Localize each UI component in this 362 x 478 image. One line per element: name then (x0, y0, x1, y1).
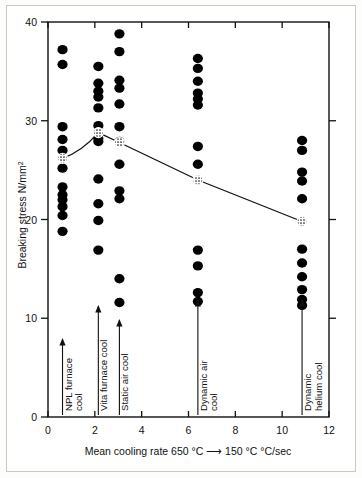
group-label: Static air cool (119, 353, 130, 411)
data-point (193, 142, 203, 151)
group-arrow-head (59, 338, 65, 345)
data-point (193, 261, 203, 270)
x-tick-label: 12 (323, 424, 335, 436)
chart-figure: 024681012 010203040 NPL furnacecoolVita … (0, 0, 362, 478)
x-tick-label: 10 (276, 424, 288, 436)
y-tick-label: 10 (25, 312, 37, 324)
data-point (114, 47, 124, 56)
x-axis-label: Mean cooling rate 650 °C ⟶ 150 °C °C/sec (85, 445, 292, 457)
data-point (57, 45, 67, 54)
data-point (57, 227, 67, 236)
data-point (114, 298, 124, 307)
x-tick-label: 2 (92, 424, 98, 436)
group-label: helium cool (313, 362, 324, 411)
mean-marker (193, 175, 203, 185)
x-tick-label: 6 (186, 424, 192, 436)
x-tick-label: 8 (232, 424, 238, 436)
data-point (114, 194, 124, 203)
data-point (93, 174, 103, 183)
data-point (193, 288, 203, 297)
group-label: Dynamic air (198, 360, 209, 411)
mean-marker (93, 128, 103, 138)
data-point (114, 83, 124, 92)
data-point (297, 194, 307, 203)
y-tick-label: 40 (25, 16, 37, 28)
data-point (93, 199, 103, 208)
group-arrow-group (59, 299, 305, 415)
group-label: Dynamic (302, 373, 313, 411)
data-point (297, 272, 307, 281)
mean-marker (58, 153, 68, 163)
data-point (193, 100, 203, 109)
data-point (57, 211, 67, 220)
data-point-group (57, 29, 307, 310)
data-point (297, 167, 307, 176)
data-point (114, 29, 124, 38)
x-tick-label: 4 (139, 424, 145, 436)
data-point (193, 64, 203, 73)
data-point (297, 285, 307, 294)
data-point (57, 122, 67, 131)
scatter-chart: 024681012 010203040 NPL furnacecoolVita … (0, 0, 362, 478)
y-tick-label: 30 (25, 115, 37, 127)
group-arrow-head (95, 305, 101, 312)
data-point (193, 54, 203, 63)
figure-page: 024681012 010203040 NPL furnacecoolVita … (0, 0, 362, 478)
group-label: NPL furnace (63, 358, 74, 411)
data-point (57, 135, 67, 144)
data-point (114, 99, 124, 108)
x-tick-label: 0 (45, 424, 51, 436)
plot-frame (48, 22, 329, 417)
data-point (93, 216, 103, 225)
y-axis-label: Breaking stress N/mm2 (16, 161, 28, 268)
data-point (114, 160, 124, 169)
data-point (57, 163, 67, 172)
group-label-group: NPL furnacecoolVita furnace coolStatic a… (63, 340, 324, 411)
group-label: cool (73, 393, 84, 411)
data-point (193, 245, 203, 254)
y-axis-ticks (41, 22, 336, 417)
data-point (297, 258, 307, 267)
group-label: Vita furnace cool (98, 340, 109, 411)
data-point (297, 244, 307, 253)
data-point (297, 146, 307, 155)
data-point (57, 202, 67, 211)
data-point (193, 160, 203, 169)
group-label: cool (208, 393, 219, 411)
data-point (57, 60, 67, 69)
data-point (114, 122, 124, 131)
x-axis-tick-labels: 024681012 (45, 424, 335, 436)
mean-marker (114, 137, 124, 147)
data-point (114, 274, 124, 283)
x-axis-ticks (48, 22, 329, 417)
data-point (93, 245, 103, 254)
data-point (297, 136, 307, 145)
y-tick-label: 0 (31, 411, 37, 423)
data-point (93, 62, 103, 71)
data-point (193, 77, 203, 86)
data-point (297, 176, 307, 185)
data-point (93, 103, 103, 112)
data-point (93, 92, 103, 101)
data-point (93, 137, 103, 146)
group-arrow-head (116, 319, 122, 326)
mean-marker (297, 216, 307, 226)
